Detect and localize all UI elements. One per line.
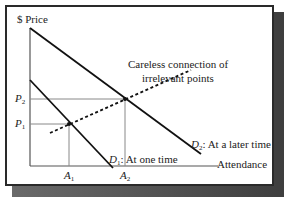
- demand-diagram: [0, 0, 285, 200]
- d1-label: D1: At one time: [109, 154, 178, 167]
- p2-label: P2: [15, 93, 25, 106]
- a2-label: A2: [120, 170, 130, 183]
- point-p2-a2: [123, 97, 127, 101]
- annotation-line1: Careless connection of: [128, 59, 228, 70]
- d2-label: D2: At a later time: [191, 139, 271, 152]
- point-p1-a1: [67, 122, 71, 126]
- p1-label: P1: [15, 118, 25, 131]
- a1-label: A1: [64, 170, 74, 183]
- annotation-line2: irrelevant points: [142, 73, 214, 84]
- demand-curve-d2: [30, 28, 201, 154]
- x-axis-label: Attendance: [217, 159, 267, 170]
- y-axis-label: $ Price: [17, 14, 48, 25]
